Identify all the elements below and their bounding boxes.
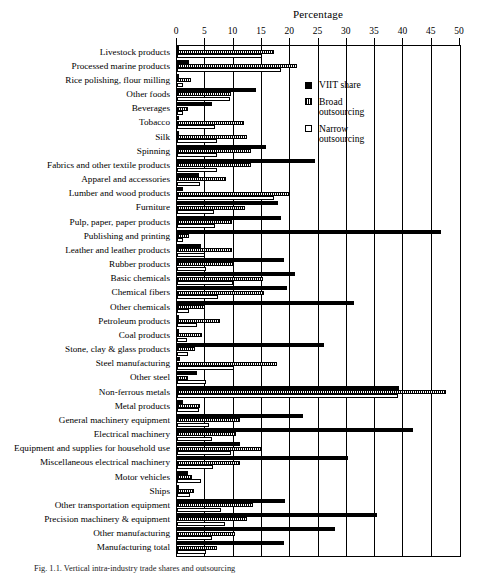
bar-narrow-outsourcing-9 (177, 182, 200, 186)
bar-narrow-outsourcing-5 (177, 125, 215, 129)
bar-narrow-outsourcing-10 (177, 196, 274, 200)
x-tick-label-15: 15 (256, 26, 266, 36)
category-label-5: Tobacco (139, 117, 170, 127)
category-label-3: Other foods (126, 89, 170, 99)
bar-narrow-outsourcing-22 (177, 366, 234, 370)
category-label-23: Other steel (130, 372, 170, 382)
category-label-14: Leather and leather products (65, 245, 170, 255)
legend-swatch-hatched-icon (305, 98, 312, 105)
category-label-15: Rubber products (109, 259, 170, 269)
category-label-9: Apparel and accessories (81, 174, 170, 184)
x-tick-label-0: 0 (174, 26, 179, 36)
x-tick-label-20: 20 (284, 26, 294, 36)
x-tick-mark-40 (402, 38, 403, 45)
category-label-7: Spinning (137, 146, 170, 156)
category-label-10: Lumber and wood products (69, 188, 170, 198)
bar-narrow-outsourcing-27 (177, 437, 212, 441)
x-tick-label-25: 25 (313, 26, 323, 36)
bar-narrow-outsourcing-19 (177, 323, 197, 327)
category-label-12: Pulp, paper, paper products (70, 217, 170, 227)
bar-narrow-outsourcing-3 (177, 97, 230, 101)
figure-caption: Fig. 1.1. Vertical intra-industry trade … (34, 564, 454, 574)
x-tick-mark-35 (374, 38, 375, 45)
bar-narrow-outsourcing-16 (177, 281, 233, 285)
bar-narrow-outsourcing-25 (177, 408, 199, 412)
bar-narrow-outsourcing-6 (177, 139, 217, 143)
x-tick-label-40: 40 (398, 26, 408, 36)
category-label-18: Other chemicals (110, 302, 170, 312)
x-tick-mark-30 (346, 38, 347, 45)
bar-viit-share-21 (177, 343, 324, 347)
bar-narrow-outsourcing-17 (177, 295, 218, 299)
legend-item-broad-outsourcing: Broad outsourcing (305, 97, 415, 118)
bar-narrow-outsourcing-34 (177, 536, 212, 540)
bar-narrow-outsourcing-12 (177, 224, 215, 228)
category-label-24: Non-ferrous metals (99, 387, 170, 397)
category-label-6: Silk (155, 132, 170, 142)
category-label-29: Miscellaneous electrical machinery (40, 457, 170, 467)
x-tick-mark-25 (318, 38, 319, 45)
legend-label-narrow-line1: Narrow (319, 123, 348, 134)
legend-label-viit-share: VIIT share (319, 79, 361, 90)
bar-narrow-outsourcing-8 (177, 168, 217, 172)
category-label-2: Rice polishing, flour milling (65, 75, 170, 85)
bar-viit-share-13 (177, 230, 441, 234)
x-axis-tick-marks (176, 38, 459, 45)
x-tick-mark-50 (459, 38, 460, 45)
category-label-21: Stone, clay & glass products (65, 344, 170, 354)
legend-label-narrow-line2: outsourcing (319, 133, 364, 144)
chart-title: Percentage (176, 8, 460, 20)
bar-narrow-outsourcing-33 (177, 522, 225, 526)
bar-narrow-outsourcing-29 (177, 465, 213, 469)
bar-narrow-outsourcing-7 (177, 153, 217, 157)
legend-swatch-white-icon (305, 125, 312, 132)
bar-narrow-outsourcing-11 (177, 210, 214, 214)
bar-narrow-outsourcing-15 (177, 267, 206, 271)
x-tick-mark-0 (176, 38, 177, 45)
category-label-34: Other manufacturing (93, 528, 170, 538)
category-label-28: Equipment and supplies for household use (14, 443, 170, 453)
x-tick-mark-20 (289, 38, 290, 45)
x-tick-label-50: 50 (454, 26, 464, 36)
category-label-33: Precision machinery & equipment (44, 514, 170, 524)
bar-narrow-outsourcing-18 (177, 309, 189, 313)
x-tick-label-35: 35 (369, 26, 379, 36)
category-label-27: Electrical machinery (94, 429, 170, 439)
category-label-1: Processed marine products (72, 61, 170, 71)
category-label-20: Coal products (119, 330, 170, 340)
legend-swatch-solid-black-icon (305, 82, 312, 89)
category-label-19: Petroleum products (98, 316, 170, 326)
x-tick-mark-45 (431, 38, 432, 45)
bar-narrow-outsourcing-4 (177, 111, 183, 115)
bar-narrow-outsourcing-26 (177, 423, 209, 427)
bar-narrow-outsourcing-20 (177, 338, 187, 342)
bar-narrow-outsourcing-0 (177, 54, 262, 58)
bar-narrow-outsourcing-1 (177, 68, 281, 72)
bar-narrow-outsourcing-30 (177, 479, 201, 483)
bar-narrow-outsourcing-31 (177, 493, 190, 497)
category-label-30: Motor vehicles (115, 472, 170, 482)
bar-narrow-outsourcing-2 (177, 83, 183, 87)
x-tick-label-30: 30 (341, 26, 351, 36)
category-label-13: Publishing and printing (84, 231, 170, 241)
category-label-4: Beverages (132, 103, 170, 113)
category-label-31: Ships (150, 486, 170, 496)
bar-narrow-outsourcing-13 (177, 238, 183, 242)
category-label-25: Metal products (115, 401, 170, 411)
y-axis-category-labels: Livestock productsProcessed marine produ… (0, 45, 173, 555)
x-tick-label-10: 10 (228, 26, 238, 36)
legend-label-broad-line2: outsourcing (319, 106, 364, 117)
legend-item-viit-share: VIIT share (305, 80, 415, 91)
x-tick-mark-10 (233, 38, 234, 45)
bar-narrow-outsourcing-32 (177, 508, 221, 512)
category-label-35: Manufacturing total (97, 542, 170, 552)
bar-narrow-outsourcing-21 (177, 352, 188, 356)
category-label-17: Chemical fibers (112, 287, 170, 297)
bar-narrow-outsourcing-28 (177, 451, 231, 455)
bar-narrow-outsourcing-35 (177, 550, 206, 554)
x-tick-label-45: 45 (426, 26, 436, 36)
x-tick-label-5: 5 (202, 26, 207, 36)
bar-narrow-outsourcing-14 (177, 253, 205, 257)
category-label-22: Steel manufacturing (96, 358, 170, 368)
category-label-8: Fabrics and other textile products (47, 160, 170, 170)
